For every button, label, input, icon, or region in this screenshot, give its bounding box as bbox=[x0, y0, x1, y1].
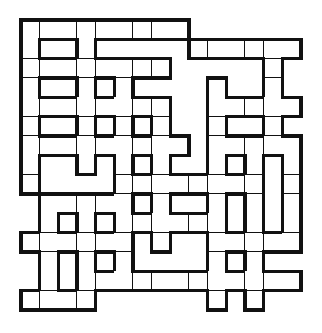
grid-cell[interactable] bbox=[152, 271, 171, 290]
grid-cell[interactable] bbox=[77, 136, 96, 155]
grid-cell[interactable] bbox=[114, 155, 133, 174]
grid-cell[interactable] bbox=[77, 117, 96, 136]
grid-cell[interactable] bbox=[208, 271, 227, 290]
grid-cell[interactable] bbox=[226, 271, 245, 290]
grid-cell[interactable] bbox=[208, 97, 227, 116]
grid-cell[interactable] bbox=[21, 117, 40, 136]
grid-cell[interactable] bbox=[245, 136, 264, 155]
grid-cell[interactable] bbox=[152, 155, 171, 174]
grid-cell[interactable] bbox=[208, 155, 227, 174]
grid-cell[interactable] bbox=[264, 78, 283, 97]
grid-cell[interactable] bbox=[133, 136, 152, 155]
grid-cell[interactable] bbox=[77, 194, 96, 213]
grid-cell[interactable] bbox=[245, 291, 264, 310]
grid-cell[interactable] bbox=[133, 59, 152, 78]
grid-cell[interactable] bbox=[170, 175, 189, 194]
grid-cell[interactable] bbox=[114, 175, 133, 194]
grid-cell[interactable] bbox=[77, 97, 96, 116]
grid-cell[interactable] bbox=[96, 59, 115, 78]
grid-cell[interactable] bbox=[21, 136, 40, 155]
grid-cell[interactable] bbox=[208, 175, 227, 194]
grid-cell[interactable] bbox=[96, 271, 115, 290]
grid-cell[interactable] bbox=[245, 233, 264, 252]
grid-cell[interactable] bbox=[152, 213, 171, 232]
grid-cell[interactable] bbox=[40, 136, 59, 155]
grid-cell[interactable] bbox=[58, 20, 77, 39]
grid-cell[interactable] bbox=[282, 175, 301, 194]
grid-cell[interactable] bbox=[282, 271, 301, 290]
grid-cell[interactable] bbox=[114, 252, 133, 271]
grid-cell[interactable] bbox=[21, 39, 40, 58]
grid-cell[interactable] bbox=[208, 39, 227, 58]
grid-cell[interactable] bbox=[282, 233, 301, 252]
grid-cell[interactable] bbox=[21, 97, 40, 116]
grid-cell[interactable] bbox=[114, 136, 133, 155]
grid-cell[interactable] bbox=[21, 291, 40, 310]
grid-cell[interactable] bbox=[189, 175, 208, 194]
grid-cell[interactable] bbox=[133, 271, 152, 290]
grid-cell[interactable] bbox=[77, 213, 96, 232]
grid-cell[interactable] bbox=[208, 194, 227, 213]
grid-cell[interactable] bbox=[96, 20, 115, 39]
grid-cell[interactable] bbox=[170, 20, 189, 39]
grid-cell[interactable] bbox=[264, 233, 283, 252]
grid-cell[interactable] bbox=[245, 271, 264, 290]
grid-cell[interactable] bbox=[114, 97, 133, 116]
grid-cell[interactable] bbox=[77, 252, 96, 271]
grid-cell[interactable] bbox=[264, 271, 283, 290]
grid-cell[interactable] bbox=[133, 20, 152, 39]
grid-cell[interactable] bbox=[152, 117, 171, 136]
grid-cell[interactable] bbox=[133, 175, 152, 194]
grid-cell[interactable] bbox=[226, 39, 245, 58]
grid-cell[interactable] bbox=[170, 271, 189, 290]
grid-cell[interactable] bbox=[208, 78, 227, 97]
grid-cell[interactable] bbox=[133, 97, 152, 116]
grid-cell[interactable] bbox=[152, 20, 171, 39]
grid-cell[interactable] bbox=[77, 39, 96, 58]
grid-cell[interactable] bbox=[96, 233, 115, 252]
grid-cell[interactable] bbox=[114, 78, 133, 97]
grid-cell[interactable] bbox=[208, 117, 227, 136]
grid-cell[interactable] bbox=[152, 233, 171, 252]
grid-cell[interactable] bbox=[282, 39, 301, 58]
grid-cell[interactable] bbox=[77, 271, 96, 290]
grid-cell[interactable] bbox=[96, 194, 115, 213]
grid-cell[interactable] bbox=[77, 291, 96, 310]
grid-cell[interactable] bbox=[21, 78, 40, 97]
grid-cell[interactable] bbox=[282, 155, 301, 174]
grid-cell[interactable] bbox=[77, 233, 96, 252]
grid-cell[interactable] bbox=[189, 213, 208, 232]
grid-cell[interactable] bbox=[58, 97, 77, 116]
grid-cell[interactable] bbox=[152, 136, 171, 155]
grid-cell[interactable] bbox=[226, 136, 245, 155]
grid-cell[interactable] bbox=[40, 97, 59, 116]
grid-cell[interactable] bbox=[77, 78, 96, 97]
grid-cell[interactable] bbox=[114, 233, 133, 252]
grid-cell[interactable] bbox=[245, 175, 264, 194]
grid-cell[interactable] bbox=[21, 59, 40, 78]
grid-cell[interactable] bbox=[208, 136, 227, 155]
grid-cell[interactable] bbox=[40, 271, 59, 290]
grid-cell[interactable] bbox=[40, 233, 59, 252]
grid-cell[interactable] bbox=[96, 97, 115, 116]
grid-cell[interactable] bbox=[114, 213, 133, 232]
grid-cell[interactable] bbox=[40, 252, 59, 271]
grid-cell[interactable] bbox=[245, 39, 264, 58]
grid-cell[interactable] bbox=[114, 20, 133, 39]
grid-cell[interactable] bbox=[96, 136, 115, 155]
grid-cell[interactable] bbox=[226, 97, 245, 116]
grid-cell[interactable] bbox=[245, 155, 264, 174]
grid-cell[interactable] bbox=[189, 39, 208, 58]
grid-cell[interactable] bbox=[114, 194, 133, 213]
grid-cell[interactable] bbox=[226, 175, 245, 194]
grid-cell[interactable] bbox=[152, 97, 171, 116]
grid-cell[interactable] bbox=[264, 136, 283, 155]
grid-cell[interactable] bbox=[114, 59, 133, 78]
grid-cell[interactable] bbox=[21, 20, 40, 39]
grid-cell[interactable] bbox=[208, 233, 227, 252]
grid-cell[interactable] bbox=[264, 39, 283, 58]
grid-cell[interactable] bbox=[264, 97, 283, 116]
grid-cell[interactable] bbox=[245, 252, 264, 271]
grid-cell[interactable] bbox=[152, 59, 171, 78]
grid-cell[interactable] bbox=[21, 233, 40, 252]
